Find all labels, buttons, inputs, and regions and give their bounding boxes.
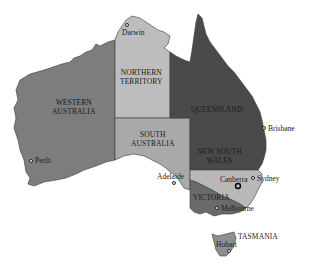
label-victoria: VICTORIA — [193, 193, 230, 202]
city-melbourne[interactable]: Melbourne — [221, 204, 254, 213]
city-adelaide[interactable]: Adelaide — [157, 172, 184, 181]
city-canberra[interactable]: Canberra — [220, 175, 247, 184]
city-perth[interactable]: Perth — [35, 156, 51, 165]
label-queensland: QUEENSLAND — [191, 105, 242, 114]
city-dot-icon — [125, 23, 129, 27]
city-brisbane[interactable]: Brisbane — [268, 124, 295, 133]
city-dot-icon — [262, 126, 266, 130]
label-western-australia: WESTERN AUSTRALIA — [52, 98, 95, 116]
label-south-australia: SOUTH AUSTRALIA — [131, 130, 174, 148]
city-dot-icon — [227, 249, 231, 253]
label-new-south-wales: NEW SOUTH WALES — [197, 147, 242, 165]
city-dot-icon — [251, 176, 255, 180]
city-dot-icon — [172, 181, 176, 185]
label-northern-territory: NORTHERN TERRITORY — [120, 68, 162, 86]
city-hobart[interactable]: Hobart — [216, 240, 237, 249]
city-sydney[interactable]: Sydney — [257, 174, 280, 183]
city-darwin[interactable]: Darwin — [122, 28, 145, 37]
city-dot-icon — [29, 159, 33, 163]
label-tasmania: TASMANIA — [238, 232, 278, 241]
city-dot-icon — [215, 206, 219, 210]
